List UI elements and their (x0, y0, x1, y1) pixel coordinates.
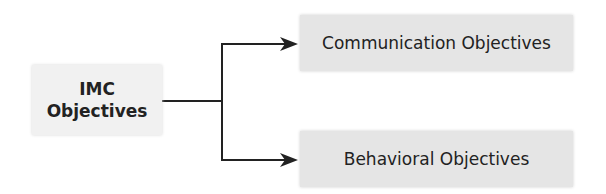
node-label: Communication Objectives (322, 33, 551, 53)
root-label-line2: Objectives (47, 100, 148, 122)
node-communication-objectives: Communication Objectives (300, 15, 573, 71)
node-label: Behavioral Objectives (344, 149, 530, 169)
node-behavioral-objectives: Behavioral Objectives (300, 131, 573, 187)
root-label-line1: IMC (47, 78, 148, 100)
root-node-imc-objectives: IMC Objectives (32, 65, 162, 135)
